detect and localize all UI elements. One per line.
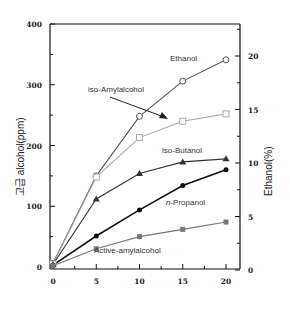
open-square-marker-icon (93, 174, 99, 180)
series-line (53, 222, 226, 266)
filled-circle-marker-icon (180, 183, 185, 188)
y-axis-title: 고급 alcohol(ppm) (15, 117, 26, 196)
open-square-marker-icon (223, 111, 229, 117)
filled-square-marker-icon (51, 263, 56, 268)
filled-square-marker-icon (180, 227, 185, 232)
label-n-propanol: n-Propanol (166, 198, 205, 207)
filled-triangle-marker-icon (223, 155, 230, 161)
label-iso-butanol: iso-Butanol (162, 146, 202, 155)
x-tick-label: 20 (221, 277, 231, 286)
filled-circle-marker-icon (94, 234, 99, 239)
y-right-tick-label: 5 (248, 213, 253, 222)
open-circle-marker-icon (180, 78, 186, 84)
x-tick-label: 15 (178, 277, 188, 286)
label-iso-amylalcohol: iso-Amylalcohol (88, 85, 144, 94)
filled-square-marker-icon (137, 234, 142, 239)
x-tick-label: 10 (134, 277, 144, 286)
label-ethanol: Ethanol (170, 54, 197, 63)
y-tick-label: 400 (26, 20, 42, 29)
y-tick-label: 0 (37, 263, 42, 272)
axis-ticks (50, 24, 240, 270)
filled-triangle-marker-icon (93, 195, 100, 201)
y-right-tick-label: 0 (248, 266, 253, 275)
filled-circle-marker-icon (137, 207, 142, 212)
open-square-marker-icon (180, 118, 186, 124)
y-tick-label: 100 (26, 202, 42, 211)
y-right-tick-label: 15 (248, 106, 258, 115)
x-tick-label: 0 (50, 277, 55, 286)
y-right-tick-label: 10 (248, 159, 258, 168)
y-axis-right-title: Ethanol(%) (263, 147, 274, 196)
y-tick-label: 300 (26, 81, 42, 90)
label-active-amylalcohol: Active-amylalcohol (94, 246, 161, 255)
open-circle-marker-icon (223, 57, 229, 63)
filled-circle-marker-icon (224, 167, 229, 172)
chart: 05101520010020030040005101520 Ethanol is… (0, 0, 290, 309)
filled-square-marker-icon (224, 220, 229, 225)
x-tick-label: 5 (94, 277, 99, 286)
open-circle-marker-icon (137, 113, 143, 119)
y-right-tick-label: 20 (248, 52, 258, 61)
open-square-marker-icon (137, 135, 143, 141)
plot-frame (50, 24, 240, 269)
y-tick-label: 200 (26, 142, 42, 151)
